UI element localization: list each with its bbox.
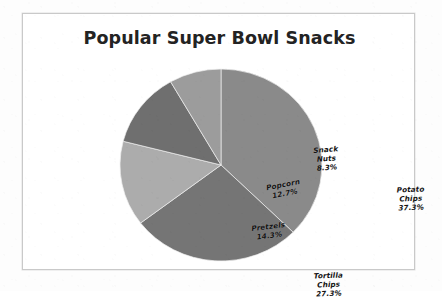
pie-chart-svg (119, 68, 323, 262)
pie-slice-group (120, 69, 322, 261)
slice-label-tortilla-chips-value: 27.3% (314, 289, 344, 299)
slice-label-potato-chips: Potato Chips 37.3% (397, 186, 426, 213)
slice-label-potato-chips-value: 37.3% (397, 203, 425, 213)
chart-frame: Popular Super Bowl Snacks Potato Chips 3… (22, 13, 415, 270)
slice-label-snack-nuts: Snack Nuts 8.3% (313, 145, 340, 173)
slice-label-tortilla-chips: Tortilla Chips 27.3% (314, 271, 344, 298)
pie-chart: Potato Chips 37.3% Tortilla Chips 27.3% … (119, 68, 323, 262)
slice-label-snack-nuts-value: 8.3% (314, 163, 339, 173)
chart-title: Popular Super Bowl Snacks (23, 28, 416, 48)
